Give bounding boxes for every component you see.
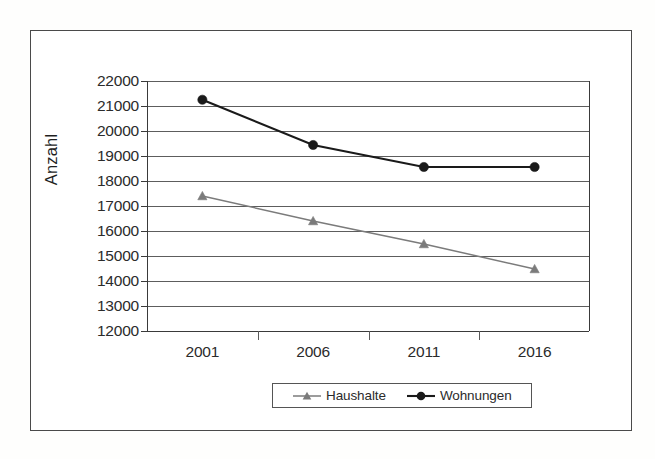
y-axis-tick-marks — [0, 81, 160, 331]
series-line-wohnungen — [202, 100, 534, 167]
data-point-wohnungen-2001 — [198, 95, 207, 104]
data-point-wohnungen-2006 — [309, 140, 318, 149]
legend-entry-haushalte: Haushalte — [292, 388, 386, 403]
x-tick-label-2006: 2006 — [296, 343, 330, 361]
plot-area-wrapper — [147, 81, 590, 331]
x-tick-label-2016: 2016 — [518, 343, 552, 361]
series-line-haushalte — [202, 196, 534, 269]
circle-marker-icon — [406, 390, 436, 402]
x-tick-label-2011: 2011 — [408, 343, 441, 361]
data-point-wohnungen-2011 — [419, 162, 428, 171]
triangle-marker-icon — [292, 390, 322, 402]
series-wohnungen — [198, 95, 539, 171]
legend-label-wohnungen: Wohnungen — [440, 388, 512, 403]
x-axis-tick-marks — [147, 331, 590, 341]
chart-legend: HaushalteWohnungen — [272, 383, 532, 408]
x-tick-label-2001: 2001 — [186, 343, 220, 361]
data-point-wohnungen-2016 — [530, 162, 539, 171]
series-layer — [147, 81, 590, 331]
x-tick-mark-3 — [479, 331, 480, 340]
legend-label-haushalte: Haushalte — [326, 388, 386, 403]
data-point-haushalte-2001 — [198, 191, 207, 199]
series-haushalte — [198, 191, 539, 272]
legend-entry-wohnungen: Wohnungen — [406, 388, 512, 403]
x-axis-tick-labels: 2001200620112016 — [147, 343, 590, 367]
x-tick-mark-2 — [369, 331, 370, 340]
x-tick-mark-1 — [258, 331, 259, 340]
